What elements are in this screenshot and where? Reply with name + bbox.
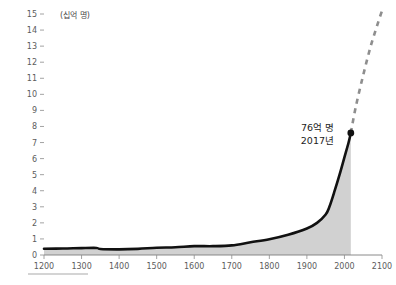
x-tick-label: 1900 bbox=[297, 262, 317, 271]
endpoint-marker bbox=[347, 129, 354, 136]
annotation-year-label: 2017년 bbox=[301, 135, 334, 146]
population-area-fill bbox=[44, 133, 351, 255]
x-tick-label: 1700 bbox=[222, 262, 242, 271]
x-tick-label: 1500 bbox=[146, 262, 166, 271]
y-tick-label: 14 bbox=[27, 26, 37, 35]
x-tick-label: 1300 bbox=[71, 262, 91, 271]
y-tick-label: 0 bbox=[32, 251, 37, 260]
projection-dashed-line bbox=[351, 11, 382, 133]
peak-point-marker bbox=[347, 129, 354, 136]
series-area-fill bbox=[44, 133, 351, 255]
y-tick-label: 10 bbox=[27, 90, 37, 99]
chart-svg: 0123456789101112131415 12001300140015001… bbox=[0, 0, 396, 285]
x-tick-label: 1400 bbox=[109, 262, 129, 271]
population-growth-chart: 0123456789101112131415 12001300140015001… bbox=[0, 0, 396, 285]
x-tick-label: 1200 bbox=[34, 262, 54, 271]
y-tick-label: 4 bbox=[32, 187, 37, 196]
x-tick-label: 2000 bbox=[334, 262, 354, 271]
y-tick-label: 9 bbox=[32, 106, 37, 115]
y-tick-label: 2 bbox=[32, 219, 37, 228]
x-tick-label: 1600 bbox=[184, 262, 204, 271]
y-tick-label: 7 bbox=[32, 139, 37, 148]
y-axis-unit-label: (십억 명) bbox=[60, 10, 90, 20]
x-axis-ticks: 1200130014001500160017001800190020002100 bbox=[34, 255, 392, 271]
y-tick-label: 12 bbox=[27, 58, 37, 67]
y-tick-label: 3 bbox=[32, 203, 37, 212]
x-tick-label: 2100 bbox=[372, 262, 392, 271]
y-tick-label: 5 bbox=[32, 171, 37, 180]
y-tick-label: 8 bbox=[32, 122, 37, 131]
y-tick-label: 15 bbox=[27, 10, 37, 19]
y-tick-label: 11 bbox=[27, 74, 37, 83]
y-tick-label: 6 bbox=[32, 155, 37, 164]
y-axis-ticks: 0123456789101112131415 bbox=[27, 10, 44, 260]
projection-line bbox=[351, 11, 382, 133]
y-tick-label: 13 bbox=[27, 42, 37, 51]
annotation-value-label: 76억 명 bbox=[301, 122, 334, 133]
y-tick-label: 1 bbox=[32, 235, 37, 244]
x-tick-label: 1800 bbox=[259, 262, 279, 271]
